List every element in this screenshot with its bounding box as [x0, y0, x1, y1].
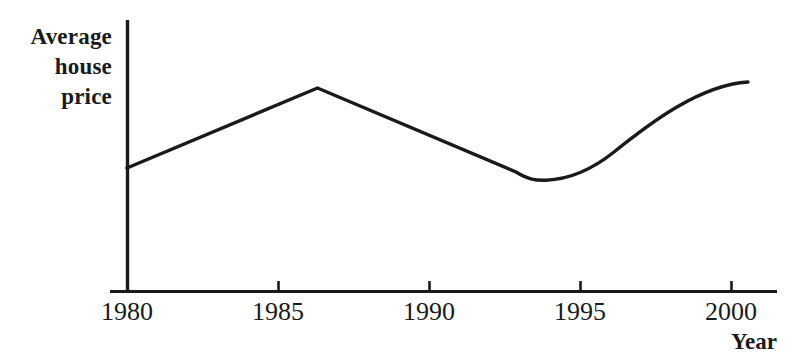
x-tick-label-1985: 1985	[218, 297, 338, 327]
x-tick-label-1995: 1995	[520, 297, 640, 327]
x-axis-title: Year	[600, 328, 777, 356]
x-tick-label-1980: 1980	[67, 297, 187, 327]
house-price-line-series	[127, 82, 748, 180]
x-tick-label-2000: 2000	[671, 297, 791, 327]
x-tick-label-1990: 1990	[369, 297, 489, 327]
x-axis-ticks	[128, 279, 732, 291]
house-price-line-chart: Average house price 1980 1985 1990 1995 …	[0, 0, 803, 362]
